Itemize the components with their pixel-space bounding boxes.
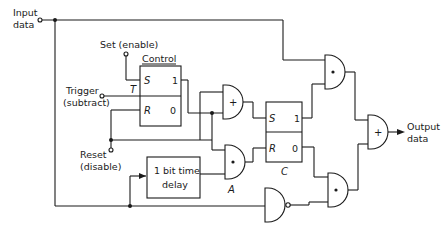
- output-data-label: Output: [407, 121, 440, 132]
- set-terminal: [124, 52, 128, 56]
- svg-text:C: C: [281, 166, 288, 177]
- svg-text:S: S: [269, 113, 276, 124]
- and-gate-top: [325, 55, 345, 89]
- control-flipflop: Control S R T 1 0: [130, 53, 181, 126]
- svg-text:+: +: [374, 127, 382, 138]
- svg-text:R: R: [269, 143, 276, 154]
- delay-input-arrow-icon: [139, 173, 146, 179]
- c-flipflop: S R 1 0 C: [266, 102, 302, 177]
- svg-text:data: data: [13, 19, 34, 30]
- svg-text:T: T: [130, 84, 137, 95]
- svg-text:0: 0: [292, 143, 298, 154]
- or-gate-left: +: [223, 85, 243, 119]
- input-data-label: Input: [13, 7, 38, 18]
- svg-text:1 bit time: 1 bit time: [154, 165, 200, 176]
- set-label: Set (enable): [100, 39, 158, 50]
- trigger-label: Trigger: [65, 85, 99, 96]
- input-data-terminal: [38, 18, 42, 22]
- reset-label: Reset: [80, 149, 107, 160]
- svg-text:0: 0: [170, 105, 176, 116]
- nand-gate: [265, 188, 309, 222]
- wires: [42, 20, 400, 206]
- svg-text:1: 1: [172, 75, 178, 86]
- svg-text:(subtract): (subtract): [63, 97, 110, 108]
- svg-text:R: R: [144, 105, 151, 116]
- and-gate-bottom: [328, 173, 348, 207]
- circuit-diagram: Control S R T 1 0 S R 1 0 C 1 bit time d…: [0, 0, 443, 231]
- svg-text:A: A: [227, 184, 235, 195]
- svg-text:S: S: [144, 75, 151, 86]
- output-arrow-icon: [397, 129, 405, 135]
- svg-text:1: 1: [294, 113, 300, 124]
- svg-text:Control: Control: [142, 53, 176, 64]
- reset-terminal: [109, 148, 113, 152]
- svg-text:(disable): (disable): [80, 161, 121, 172]
- and-gate-a: A: [225, 145, 245, 195]
- delay-block: 1 bit time delay: [147, 157, 200, 198]
- svg-text:delay: delay: [162, 179, 188, 190]
- svg-text:+: +: [229, 97, 237, 108]
- svg-text:data: data: [407, 133, 428, 144]
- or-gate-output: +: [368, 115, 388, 149]
